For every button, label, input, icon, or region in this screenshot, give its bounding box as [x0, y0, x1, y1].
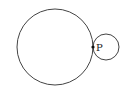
large-circle	[17, 9, 93, 85]
tangent-circles-diagram: P	[0, 0, 128, 100]
point-label: P	[96, 42, 103, 53]
tangent-point	[91, 45, 94, 48]
